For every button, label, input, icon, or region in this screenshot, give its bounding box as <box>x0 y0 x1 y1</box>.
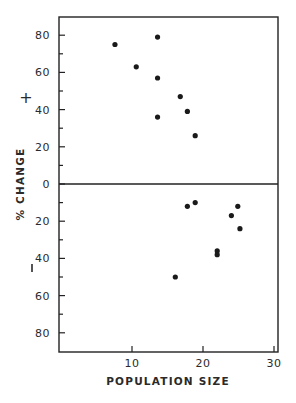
x-tick-label: 30 <box>267 357 282 370</box>
data-point <box>215 252 220 257</box>
scatter-chart: 80604020020406080 102030 + % CHANGE POPU… <box>0 0 296 403</box>
y-tick-label: 20 <box>35 141 50 154</box>
x-tick-label: 10 <box>125 357 140 370</box>
data-point <box>112 42 117 47</box>
data-point <box>229 213 234 218</box>
y-tick-label: 80 <box>35 29 50 42</box>
y-tick-label: 40 <box>35 252 50 265</box>
data-point <box>185 204 190 209</box>
x-axis-ticks: 102030 <box>125 346 282 370</box>
y-tick-label: 40 <box>35 104 50 117</box>
data-point <box>173 274 178 279</box>
data-point <box>134 64 139 69</box>
data-point <box>155 75 160 80</box>
y-axis-ticks: 80604020020406080 <box>35 29 65 340</box>
data-point <box>235 204 240 209</box>
y-tick-label: 60 <box>35 290 50 303</box>
y-tick-label: 0 <box>43 178 51 191</box>
data-point <box>193 200 198 205</box>
data-point <box>193 133 198 138</box>
data-point <box>155 114 160 119</box>
y-tick-label: 60 <box>35 66 50 79</box>
x-axis-title: POPULATION SIZE <box>106 375 230 387</box>
positive-sign-label: + <box>19 88 32 107</box>
y-axis-title: % CHANGE <box>14 148 26 221</box>
x-tick-label: 20 <box>196 357 211 370</box>
data-point <box>185 109 190 114</box>
data-points <box>112 34 242 279</box>
data-point <box>178 94 183 99</box>
y-tick-label: 20 <box>35 215 50 228</box>
data-point <box>237 226 242 231</box>
data-point <box>155 34 160 39</box>
y-tick-label: 80 <box>35 327 50 340</box>
